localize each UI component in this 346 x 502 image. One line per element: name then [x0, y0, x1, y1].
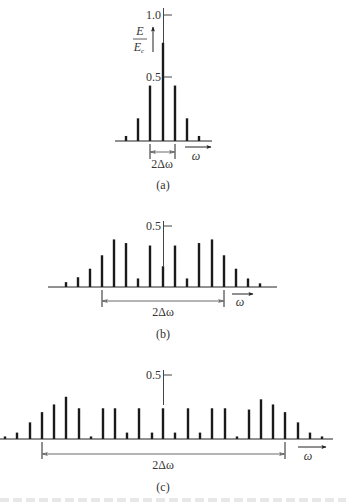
spectral-line — [101, 255, 103, 287]
panel-c-tick-05-label: 0.5 — [146, 368, 161, 382]
spectrum-figure: 1.0 0.5 E Ec 2Δω ω (a) 0.5 2Δω ω (b) — [0, 0, 346, 502]
panel-b-caption: (b) — [156, 327, 170, 341]
spectral-line — [114, 408, 116, 439]
spectral-line — [125, 243, 127, 287]
spectral-line — [113, 239, 115, 287]
panel-a-tick-1-label: 1.0 — [146, 8, 161, 22]
spectral-line — [199, 433, 201, 439]
panel-a-span-label: 2Δω — [151, 157, 173, 171]
spectral-line — [211, 239, 213, 287]
panel-a-omega-label: ω — [192, 149, 200, 163]
spectral-line — [187, 408, 189, 439]
spectral-line — [16, 433, 18, 439]
panel-b: 0.5 2Δω ω (b) — [48, 219, 277, 341]
spectral-line — [248, 410, 250, 439]
spectral-line — [247, 278, 249, 287]
spectral-line — [126, 433, 128, 439]
spectral-line — [78, 408, 80, 439]
spectral-line — [272, 404, 274, 439]
panel-c: 0.5 2Δω ω (c) — [0, 368, 333, 494]
y-label-denominator: Ec — [133, 40, 145, 55]
spectral-line — [235, 269, 237, 287]
spectral-line — [297, 422, 299, 439]
spectral-line — [89, 269, 91, 287]
spectral-line — [41, 412, 43, 439]
spectral-line — [260, 399, 262, 439]
spectral-line — [162, 266, 164, 287]
spectral-line — [224, 408, 226, 439]
spectral-line — [198, 243, 200, 287]
spectral-line — [29, 422, 31, 439]
spectral-line — [149, 86, 151, 141]
spectral-line — [65, 282, 67, 287]
panel-a-lines — [125, 43, 200, 141]
spectral-line — [223, 255, 225, 287]
spectral-line — [151, 433, 153, 439]
cropped-caption-text — [0, 498, 346, 502]
panel-c-omega-label: ω — [304, 449, 312, 463]
spectral-line — [174, 86, 176, 141]
spectral-line — [284, 412, 286, 439]
panel-c-span-label: 2Δω — [152, 458, 174, 472]
panel-b-tick-05-label: 0.5 — [146, 219, 161, 233]
spectral-line — [162, 408, 164, 439]
spectral-line — [259, 283, 261, 287]
panel-c-caption: (c) — [156, 480, 169, 494]
spectral-line — [77, 277, 79, 287]
panel-b-span-label: 2Δω — [152, 305, 174, 319]
panel-b-omega-label: ω — [236, 295, 244, 309]
panel-a: 1.0 0.5 E Ec 2Δω ω (a) — [115, 8, 212, 192]
spectral-line — [162, 43, 164, 141]
panel-a-tick-05-label: 0.5 — [146, 70, 161, 84]
spectral-line — [53, 404, 55, 439]
spectral-line — [138, 408, 140, 439]
spectral-line — [174, 433, 176, 439]
spectral-line — [309, 433, 311, 439]
spectral-line — [137, 278, 139, 287]
spectral-line — [102, 408, 104, 439]
spectral-line — [186, 278, 188, 287]
y-label-numerator: E — [135, 24, 144, 38]
spectral-line — [65, 397, 67, 439]
panel-a-caption: (a) — [156, 178, 169, 192]
spectral-line — [149, 246, 151, 287]
spectral-line — [137, 118, 139, 141]
spectral-line — [174, 246, 176, 287]
spectral-line — [211, 408, 213, 439]
spectral-line — [186, 118, 188, 141]
spectral-line — [198, 136, 200, 141]
spectral-line — [125, 136, 127, 141]
